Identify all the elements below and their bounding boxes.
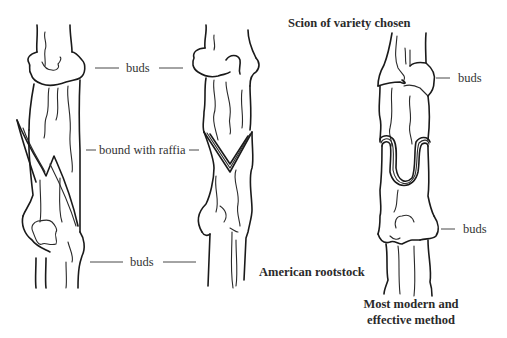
label-bound-with-raffia: bound with raffia (99, 143, 186, 157)
label-buds-right-top: buds (458, 71, 482, 85)
label-method-line2: effective method (350, 313, 472, 327)
label-method-line1: Most modern and (350, 297, 472, 311)
right-stem (378, 33, 438, 296)
leader-lines (86, 68, 455, 262)
middle-stem (193, 25, 259, 288)
label-buds-bottom: buds (130, 255, 154, 269)
label-buds-right-bottom: buds (463, 222, 487, 236)
label-scion: Scion of variety chosen (288, 16, 411, 30)
label-american-rootstock: American rootstock (259, 265, 365, 279)
label-buds-top: buds (126, 61, 150, 75)
diagram-drawing (0, 0, 507, 338)
grafting-diagram: buds bound with raffia buds Scion of var… (0, 0, 507, 338)
left-stem (17, 25, 85, 288)
